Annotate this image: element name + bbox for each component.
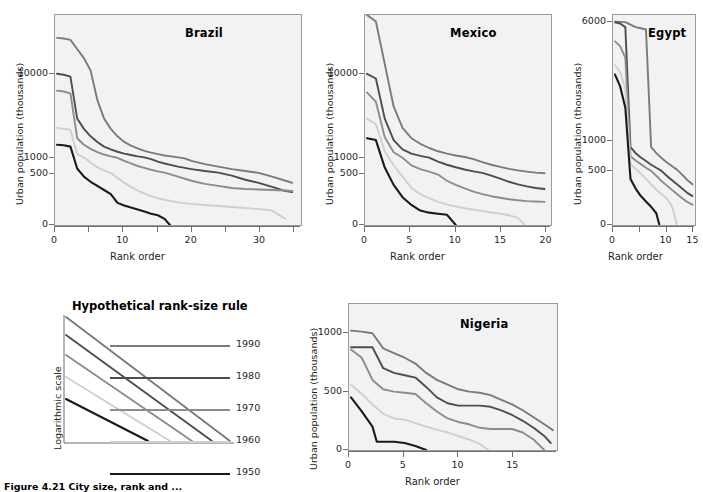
y-tick-label: 1000 [566, 134, 606, 145]
x-tick-mark [457, 452, 458, 457]
x-tick-label: 5 [393, 234, 425, 245]
panel-egypt: Urban population (thousands) Egypt Rank … [560, 0, 698, 275]
x-tick-label: 20 [529, 234, 561, 245]
x-tick-mark [191, 227, 192, 232]
y-tick-mark [607, 140, 612, 141]
y-tick-label: 10000 [8, 67, 48, 78]
x-tick-mark [666, 227, 667, 232]
x-tick-label: 30 [243, 234, 275, 245]
hypothetical-title: Hypothetical rank-size rule [72, 299, 248, 313]
y-tick-mark [343, 391, 348, 392]
y-tick-mark [359, 157, 364, 158]
series-line-1980 [57, 74, 292, 192]
x-tick-label: 0 [332, 459, 364, 470]
brazil-title: Brazil [185, 26, 223, 40]
y-tick-label: 1000 [8, 151, 48, 162]
x-tick-mark [225, 227, 226, 232]
mexico-plot-area [364, 14, 552, 226]
x-axis-line [54, 226, 300, 227]
legend-rule-1950 [110, 473, 230, 475]
x-tick-label: 20 [175, 234, 207, 245]
x-tick-label: 0 [348, 234, 380, 245]
series-line-1960 [351, 385, 488, 450]
x-tick-mark [455, 227, 456, 232]
hypothetical-line-1980 [66, 335, 212, 441]
y-tick-mark [343, 449, 348, 450]
egypt-plot-area [612, 14, 696, 226]
hypothetical-plot-area [62, 315, 234, 445]
nigeria-title: Nigeria [460, 317, 508, 331]
nigeria-plot-area [348, 303, 558, 451]
series-line-1970 [351, 350, 544, 450]
figure-caption: Figure 4.21 City size, rank and ... [4, 481, 182, 492]
y-tick-label: 0 [566, 218, 606, 229]
x-tick-mark [500, 227, 501, 232]
series-line-1960 [57, 128, 286, 219]
y-tick-mark [607, 224, 612, 225]
x-axis-line [364, 226, 550, 227]
x-tick-mark [403, 452, 404, 457]
y-tick-label: 6000 [566, 15, 606, 26]
mexico-title: Mexico [450, 26, 497, 40]
x-tick-label: 0 [38, 234, 70, 245]
x-tick-mark [364, 227, 365, 232]
egypt-title: Egypt [648, 26, 686, 40]
y-tick-label: 0 [302, 443, 342, 454]
brazil-x-axis-label: Rank order [110, 251, 165, 262]
y-tick-label: 0 [8, 218, 48, 229]
brazil-plot-area [54, 14, 302, 226]
y-tick-mark [607, 21, 612, 22]
nigeria-x-axis-label: Rank order [405, 476, 460, 487]
y-tick-mark [49, 173, 54, 174]
series-line-1970 [57, 91, 292, 191]
y-tick-mark [359, 224, 364, 225]
series-line-1980 [351, 347, 551, 443]
mexico-x-axis-label: Rank order [390, 251, 445, 262]
series-line-1990 [351, 331, 553, 431]
x-tick-label: 15 [676, 234, 703, 245]
x-tick-label: 10 [441, 459, 473, 470]
x-tick-label: 10 [106, 234, 138, 245]
y-tick-label: 1000 [302, 326, 342, 337]
panel-nigeria: Urban population (thousands) Nigeria Ran… [300, 285, 590, 490]
x-tick-label: 10 [439, 234, 471, 245]
x-axis-line [348, 451, 556, 452]
y-tick-mark [343, 332, 348, 333]
x-tick-mark [545, 227, 546, 232]
brazil-y-axis-label: Urban population (thousands) [14, 63, 25, 205]
legend-label-1970: 1970 [236, 402, 260, 413]
y-tick-label: 500 [318, 167, 358, 178]
x-tick-mark [88, 227, 89, 232]
legend-label-1990: 1990 [236, 338, 260, 349]
x-tick-mark [54, 227, 55, 232]
panel-brazil: Urban population (thousands) Brazil Rank… [0, 0, 310, 275]
x-tick-mark [612, 227, 613, 232]
x-tick-label: 15 [484, 234, 516, 245]
legend-rule-1960 [110, 441, 230, 443]
legend-rule-1970 [110, 409, 230, 411]
egypt-x-axis-label: Rank order [608, 251, 663, 262]
x-tick-label: 15 [496, 459, 528, 470]
legend-rule-1990 [110, 345, 230, 347]
series-line-1950 [367, 138, 456, 225]
x-tick-mark [409, 227, 410, 232]
y-tick-label: 500 [8, 167, 48, 178]
y-tick-mark [607, 170, 612, 171]
legend-label-1980: 1980 [236, 370, 260, 381]
y-tick-mark [359, 73, 364, 74]
series-line-1980 [367, 74, 545, 189]
legend-label-1950: 1950 [236, 466, 260, 477]
x-tick-mark [692, 227, 693, 232]
x-tick-mark [259, 227, 260, 232]
x-axis-line [612, 226, 694, 227]
panel-hypothetical: Hypothetical rank-size rule Logarithmic … [0, 285, 300, 490]
y-tick-mark [49, 157, 54, 158]
y-tick-mark [49, 224, 54, 225]
y-tick-label: 500 [566, 164, 606, 175]
hypothetical-line-1990 [66, 317, 230, 441]
y-tick-mark [359, 173, 364, 174]
legend-rule-1980 [110, 377, 230, 379]
x-tick-mark [293, 227, 294, 232]
x-tick-mark [122, 227, 123, 232]
x-tick-mark [157, 227, 158, 232]
